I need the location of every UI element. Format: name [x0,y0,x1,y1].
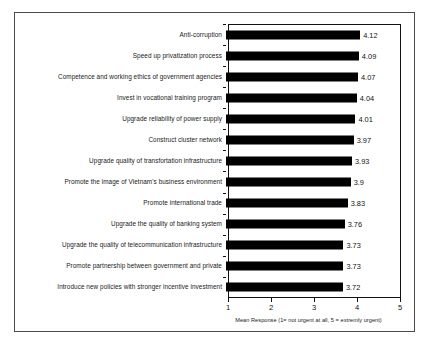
category-label: Invest in vocational training program [18,94,226,102]
x-axis-tick [228,298,229,302]
bar-track: 3.9 [226,171,398,192]
bar-row: Construct cluster network3.97 [18,129,413,150]
bar-track: 3.73 [226,235,398,256]
x-axis-tick-label: 3 [312,303,316,312]
y-axis-tick [223,45,226,46]
bar-row: Introduce new policies with stronger inc… [18,277,413,298]
x-axis-caption: Mean Response (1= not urgent at all, 5 =… [222,317,395,324]
bar-track: 3.72 [226,277,398,298]
y-axis-tick [223,193,226,194]
bar [226,156,352,165]
bar [226,51,359,60]
x-axis-tick [314,298,315,302]
bar-track: 3.76 [226,214,398,235]
bar-value-label: 3.83 [348,199,365,208]
bar-value-label: 4.01 [355,114,372,123]
bar-row: Speed up privatization process4.09 [18,45,413,66]
bar-row: Competence and working ethics of governm… [18,66,413,87]
bar-track: 3.97 [226,129,398,150]
bar-value-label: 3.73 [343,241,360,250]
category-label: Construct cluster network [18,136,226,144]
y-axis-tick [223,129,226,130]
y-axis-tick [223,150,226,151]
y-axis-tick [223,87,226,88]
x-axis-tick [271,298,272,302]
y-axis-tick [223,214,226,215]
bar-value-label: 4.09 [359,51,376,60]
y-axis-tick [223,24,226,25]
bar-value-label: 3.93 [352,156,369,165]
chart-figure: Anti-corruption4.12Speed up privatizatio… [0,0,429,347]
bar-track: 3.83 [226,193,398,214]
y-axis-tick [223,256,226,257]
category-label: Speed up privatization process [18,52,226,60]
category-label: Upgrade the quality of banking system [18,220,226,228]
bar [226,262,343,271]
bar-row: Upgrade the quality of telecommunication… [18,235,413,256]
x-axis-tick [357,298,358,302]
bar-row: Promote partnership between government a… [18,256,413,277]
x-axis-tick-label: 1 [226,303,230,312]
bar-row: Promote international trade3.83 [18,193,413,214]
x-axis-tick-label: 4 [355,303,359,312]
bar-row: Promote the image of Vietnam's business … [18,171,413,192]
category-label: Promote partnership between government a… [18,262,226,270]
bar [226,177,351,186]
bar-track: 4.09 [226,45,398,66]
bar-value-label: 3.73 [343,262,360,271]
bar-track: 3.73 [226,256,398,277]
bar-rows: Anti-corruption4.12Speed up privatizatio… [18,24,413,298]
bar-track: 3.93 [226,150,398,171]
y-axis-tick [223,108,226,109]
bar-row: Upgrade quality of transfortation infras… [18,150,413,171]
bar-row: Upgrade reliability of power supply4.01 [18,108,413,129]
x-axis-tick [400,298,401,302]
bar-value-label: 3.76 [345,220,362,229]
category-label: Promote the image of Vietnam's business … [18,178,226,186]
bar-value-label: 4.12 [360,30,377,39]
bar [226,114,355,123]
bar [226,241,343,250]
bar-track: 4.01 [226,108,398,129]
bar [226,283,343,292]
bar [226,93,357,102]
category-label: Upgrade quality of transfortation infras… [18,157,226,165]
category-label: Promote international trade [18,199,226,207]
y-axis-tick [223,171,226,172]
category-label: Upgrade the quality of telecommunication… [18,241,226,249]
bar-row: Upgrade the quality of banking system3.7… [18,214,413,235]
bar-value-label: 4.04 [357,93,374,102]
bar-row: Anti-corruption4.12 [18,24,413,45]
bar-track: 4.04 [226,87,398,108]
bar [226,30,360,39]
bar-value-label: 3.97 [354,135,371,144]
bar [226,135,354,144]
category-label: Competence and working ethics of governm… [18,73,226,81]
y-axis-tick [223,66,226,67]
bar-track: 4.12 [226,24,398,45]
x-axis-tick-label: 2 [269,303,273,312]
category-label: Introduce new policies with stronger inc… [18,283,226,291]
bar [226,72,358,81]
y-axis-tick [223,277,226,278]
y-axis-tick [223,235,226,236]
category-label: Anti-corruption [18,31,226,39]
x-axis-tick-label: 5 [398,303,402,312]
bar [226,199,348,208]
bar-row: Invest in vocational training program4.0… [18,87,413,108]
bar-value-label: 3.72 [343,283,360,292]
bar-value-label: 4.07 [358,72,375,81]
bar-value-label: 3.9 [351,177,364,186]
bar-track: 4.07 [226,66,398,87]
bar [226,220,345,229]
category-label: Upgrade reliability of power supply [18,115,226,123]
